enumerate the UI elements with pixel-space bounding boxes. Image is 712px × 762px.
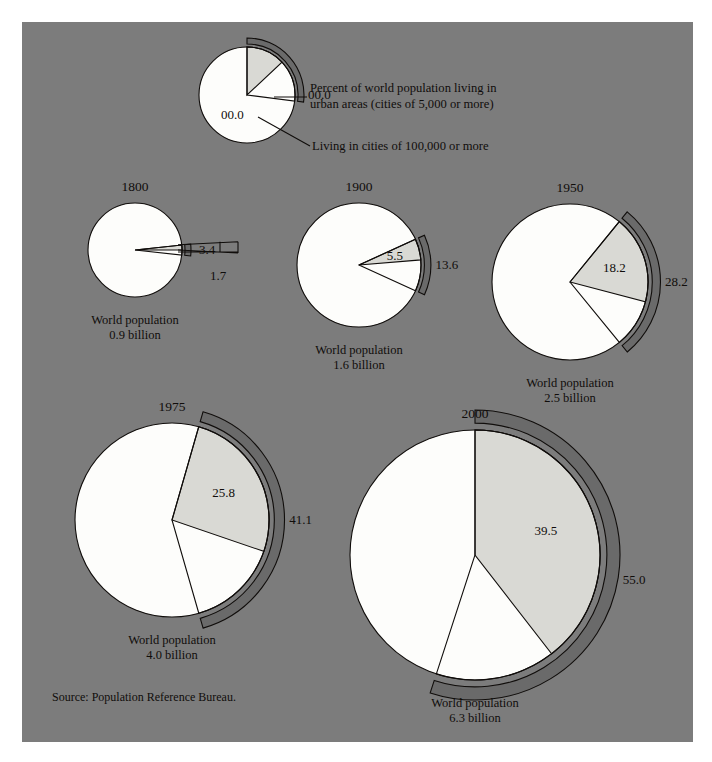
legend-key-city-value: 00.0 [221,107,244,122]
large-city-percent-label: 25.8 [212,485,235,500]
population-value: 2.5 billion [544,391,596,405]
year-label: 1800 [122,179,149,194]
pie-1975: 1975World population4.0 billion41.125.8 [75,399,312,662]
population-caption: World population [91,313,179,327]
urban-percent-label: 13.6 [436,257,459,272]
figure-panel: 00.000.01800World population0.9 billion3… [22,22,693,742]
year-label: 2000 [462,406,489,421]
population-value: 6.3 billion [449,711,501,725]
pie-chart-canvas: 00.000.01800World population0.9 billion3… [22,22,693,742]
large-city-percent-label: 39.5 [535,523,558,538]
legend-city-line: Living in cities of 100,000 or more [312,139,489,153]
pie-1800: 1800World population0.9 billion3.41.7 [88,179,238,342]
urban-percent-label: 3.4 [199,242,216,257]
population-value: 1.6 billion [333,358,385,372]
large-city-percent-label: 1.7 [210,268,227,283]
urban-percent-label: 55.0 [623,572,646,587]
population-value: 0.9 billion [109,328,161,342]
pie-2000: 2000World population6.3 billion55.039.5 [350,406,645,725]
population-caption: World population [431,696,519,710]
source-note: Source: Population Reference Bureau. [52,690,236,704]
large-city-percent-label: 18.2 [603,260,626,275]
population-caption: World population [315,343,403,357]
urban-percent-label: 28.2 [665,274,688,289]
legend-urban-line2: urban areas (cities of 5,000 or more) [310,97,494,111]
population-caption: World population [526,376,614,390]
year-label: 1975 [159,399,186,414]
urban-percent-label: 41.1 [289,512,312,527]
year-label: 1900 [346,179,373,194]
population-caption: World population [128,633,216,647]
population-value: 4.0 billion [146,648,198,662]
year-label: 1950 [557,180,584,195]
pie-1900: 1900World population1.6 billion13.65.5 [297,179,459,372]
large-city-percent-label: 5.5 [387,248,403,263]
legend-urban-line1: Percent of world population living in [310,81,497,95]
pie-1950: 1950World population2.5 billion28.218.2 [492,180,688,405]
